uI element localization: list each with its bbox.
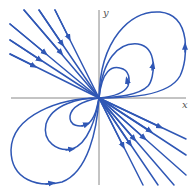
lower-left-loops xyxy=(11,98,99,184)
lower-right-trajectories xyxy=(99,98,186,185)
upper-left-trajectories xyxy=(10,10,99,98)
x-axis-label: x xyxy=(182,99,188,110)
y-axis-label: y xyxy=(102,7,109,18)
phase-portrait: x y xyxy=(0,0,191,193)
upper-right-loops xyxy=(99,12,186,98)
